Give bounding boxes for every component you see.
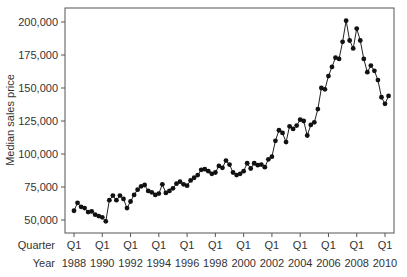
data-point (110, 193, 115, 198)
data-point (368, 63, 373, 68)
data-point (330, 64, 335, 69)
data-point (379, 95, 384, 100)
data-point (291, 127, 296, 132)
x-tick-year: 2000 (231, 257, 255, 269)
x-row-label-quarter: Quarter (18, 239, 56, 251)
y-tick-label: 200,000 (18, 16, 58, 28)
data-point (128, 199, 133, 204)
data-point (376, 78, 381, 83)
data-point (344, 18, 349, 23)
data-point (220, 165, 225, 170)
x-tick-year: 1994 (147, 257, 171, 269)
data-point (100, 215, 105, 220)
x-tick-quarter: Q1 (180, 239, 195, 251)
data-point (185, 183, 190, 188)
series-line (74, 21, 389, 222)
y-tick-label: 75,000 (24, 181, 58, 193)
x-tick-year: 2010 (373, 257, 397, 269)
data-point (125, 206, 130, 211)
x-tick-quarter: Q1 (349, 239, 364, 251)
data-point (89, 209, 94, 214)
line-chart: 50,00075,000100,000125,000150,000175,000… (0, 0, 407, 277)
data-point (114, 198, 119, 203)
data-series (72, 18, 391, 223)
x-axis: Q11988Q11990Q11992Q11994Q11996Q11998Q120… (62, 233, 397, 269)
x-tick-quarter: Q1 (67, 239, 82, 251)
x-tick-year: 2002 (260, 257, 284, 269)
data-point (72, 208, 77, 213)
data-point (245, 161, 250, 166)
data-point (347, 38, 352, 43)
x-row-label-year: Year (33, 257, 56, 269)
data-point (323, 87, 328, 92)
data-point (160, 182, 165, 187)
data-point (213, 170, 218, 175)
x-tick-quarter: Q1 (378, 239, 393, 251)
data-point (315, 107, 320, 112)
data-point (340, 39, 345, 44)
data-point (142, 183, 147, 188)
x-tick-quarter: Q1 (151, 239, 166, 251)
data-point (365, 70, 370, 75)
data-point (312, 120, 317, 125)
y-tick-label: 125,000 (18, 115, 58, 127)
data-point (121, 196, 126, 201)
data-point (75, 200, 80, 205)
x-tick-quarter: Q1 (321, 239, 336, 251)
data-point (156, 191, 161, 196)
data-point (301, 119, 306, 124)
data-point (118, 193, 123, 198)
data-point (248, 166, 253, 171)
y-tick-label: 150,000 (18, 82, 58, 94)
x-tick-quarter: Q1 (95, 239, 110, 251)
data-point (224, 158, 229, 163)
data-point (195, 173, 200, 178)
data-point (386, 94, 391, 99)
x-tick-quarter: Q1 (208, 239, 223, 251)
x-tick-quarter: Q1 (293, 239, 308, 251)
data-point (262, 165, 267, 170)
data-point (337, 57, 342, 62)
x-tick-quarter: Q1 (123, 239, 138, 251)
data-point (171, 186, 176, 191)
y-tick-label: 175,000 (18, 49, 58, 61)
data-point (305, 133, 310, 138)
data-point (103, 219, 108, 224)
x-tick-year: 1996 (175, 257, 199, 269)
data-point (326, 74, 331, 79)
x-tick-year: 1992 (118, 257, 142, 269)
x-tick-year: 1990 (90, 257, 114, 269)
data-point (280, 130, 285, 135)
data-point (273, 138, 278, 143)
data-point (361, 57, 366, 62)
data-point (354, 26, 359, 31)
y-axis: 50,00075,000100,000125,000150,000175,000… (18, 16, 65, 226)
x-tick-year: 1998 (203, 257, 227, 269)
data-point (270, 154, 275, 159)
data-point (351, 46, 356, 51)
data-point (135, 187, 140, 192)
data-point (372, 68, 377, 73)
data-point (383, 101, 388, 106)
data-point (227, 162, 232, 167)
data-point (294, 123, 299, 128)
x-tick-quarter: Q1 (265, 239, 280, 251)
y-tick-label: 100,000 (18, 148, 58, 160)
x-tick-year: 2006 (316, 257, 340, 269)
data-point (358, 38, 363, 43)
data-point (82, 206, 87, 211)
x-tick-year: 1988 (62, 257, 86, 269)
x-tick-quarter: Q1 (236, 239, 251, 251)
y-axis-title: Median sales price (4, 74, 16, 166)
data-point (132, 193, 137, 198)
data-point (107, 198, 112, 203)
x-tick-year: 2004 (288, 257, 312, 269)
data-point (284, 140, 289, 145)
data-point (241, 169, 246, 174)
y-tick-label: 50,000 (24, 214, 58, 226)
x-tick-year: 2008 (344, 257, 368, 269)
